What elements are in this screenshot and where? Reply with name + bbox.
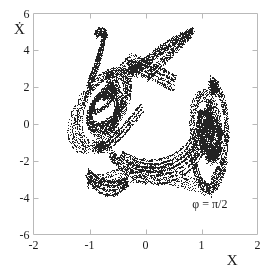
y-tick-label: 6 [24, 8, 30, 20]
y-tick-label: 0 [24, 118, 30, 130]
phase-annotation: φ = π/2 [192, 197, 227, 212]
y-tick-label: -4 [20, 192, 30, 204]
y-tick-label: 4 [24, 44, 30, 56]
y-tick-label: -2 [20, 155, 30, 167]
x-tick-label: -2 [29, 239, 39, 251]
y-axis-label: Ẋ [14, 22, 25, 37]
x-tick-label: 2 [255, 239, 261, 251]
x-axis-label: X [227, 253, 238, 268]
x-tick-label: 0 [143, 239, 149, 251]
attractor-scatter-canvas [0, 0, 276, 273]
x-tick-label: -1 [85, 239, 95, 251]
y-tick-label: 2 [24, 81, 30, 93]
x-tick-label: 1 [199, 239, 205, 251]
poincare-section-figure: Ẋ X φ = π/2 -6-4-20246-2-1012 [0, 0, 276, 273]
